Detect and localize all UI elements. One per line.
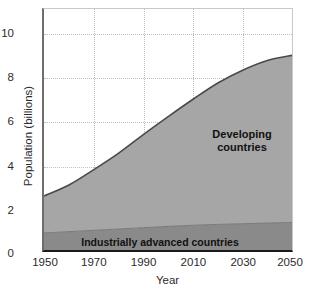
xtick-label-2050: 2050 xyxy=(263,256,313,268)
xtick-label-2010: 2010 xyxy=(166,256,220,268)
ytick-label-8: 8 xyxy=(0,71,14,83)
ytick-label-0: 0 xyxy=(0,247,14,259)
annotation-developing-countries: Developing countries xyxy=(196,128,288,154)
xtick-label-1990: 1990 xyxy=(117,256,171,268)
annotation-advanced-countries: Industrially advanced countries xyxy=(60,236,260,248)
plot-frame: Developing countries Industrially advanc… xyxy=(42,8,293,252)
y-axis-label: Population (billions) xyxy=(22,56,34,216)
annotation-developing-line2: countries xyxy=(217,141,267,153)
annotation-developing-line1: Developing xyxy=(212,128,271,140)
ytick-label-2: 2 xyxy=(0,204,14,216)
xtick-label-1970: 1970 xyxy=(67,256,121,268)
x-axis-label: Year xyxy=(42,274,293,286)
plot-area: Developing countries Industrially advanc… xyxy=(44,9,292,250)
ytick-label-6: 6 xyxy=(0,115,14,127)
xtick-label-1950: 1950 xyxy=(18,256,72,268)
ytick-label-4: 4 xyxy=(0,160,14,172)
ytick-label-10: 10 xyxy=(0,27,14,39)
population-projection-chart: Developing countries Industrially advanc… xyxy=(0,0,313,291)
